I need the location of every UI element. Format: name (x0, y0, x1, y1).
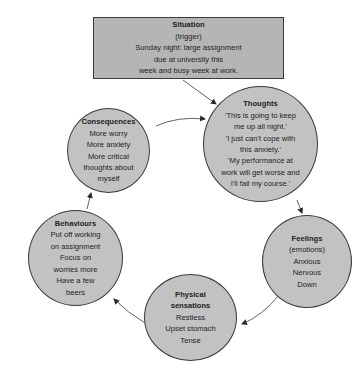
behaviours-line: worries more (54, 264, 98, 275)
behaviours-line: Put off working (50, 229, 100, 240)
situation-title: Situation (172, 19, 204, 30)
arrow-behaviours-to-consequences (87, 193, 91, 209)
arrow-consequences-to-thoughts (156, 118, 205, 126)
behaviours-line: on assignment (51, 241, 100, 252)
feelings-line: Nervous (293, 267, 321, 278)
arrow-situation-to-thoughts (183, 80, 216, 104)
thoughts-circle: Thoughts 'This is going to keep me up al… (203, 86, 318, 202)
thoughts-line: 'My performance at (228, 155, 293, 166)
situation-line: due at university this (154, 54, 223, 65)
situation-line: (trigger) (175, 31, 202, 42)
thoughts-line: work will get worse and (221, 167, 300, 178)
thoughts-line: I'll fail my course.' (231, 178, 290, 189)
consequences-line: More worry (90, 128, 128, 139)
physical-title: Physical (175, 289, 206, 300)
thoughts-line: 'This is going to keep (225, 110, 296, 121)
thoughts-line: me up all night.' (234, 121, 287, 132)
arrow-physical-to-behaviours (114, 299, 145, 323)
behaviours-line: beers (66, 287, 85, 298)
consequences-line: More anxiety (87, 139, 130, 150)
feelings-line: Anxious (293, 256, 320, 267)
behaviours-line: Have a few (57, 275, 95, 286)
arrow-thoughts-to-feelings (297, 200, 302, 213)
thoughts-title: Thoughts (243, 98, 278, 109)
behaviours-circle: Behaviours Put off working on assignment… (28, 210, 123, 306)
physical-line: Restless (176, 312, 205, 323)
behaviours-title: Behaviours (55, 218, 96, 229)
physical-sensations-circle: Physical sensations Restless Upset stoma… (144, 274, 237, 361)
consequences-line: More critical (88, 151, 129, 162)
behaviours-line: Focus on (60, 252, 91, 263)
physical-title: sensations (171, 300, 211, 311)
consequences-line: thoughts about (83, 162, 133, 173)
situation-box: Situation (trigger) Sunday night: large … (93, 17, 284, 79)
physical-line: Tense (180, 335, 200, 346)
feelings-line: Down (297, 279, 316, 290)
situation-line: week and busy week at work. (139, 65, 238, 76)
physical-line: Upset stomach (165, 323, 216, 334)
feelings-line: (emotions) (289, 244, 325, 255)
consequences-line: myself (98, 173, 120, 184)
feelings-title: Feelings (292, 233, 323, 244)
consequences-title: Consequences (81, 116, 135, 127)
thoughts-line: this anxiety.' (240, 144, 281, 155)
cbt-cycle-diagram: Situation (trigger) Sunday night: large … (0, 0, 364, 370)
situation-line: Sunday night: large assignment (135, 42, 241, 53)
feelings-circle: Feelings (emotions) Anxious Nervous Down (262, 215, 352, 308)
consequences-circle: Consequences More worry More anxiety Mor… (67, 108, 150, 193)
thoughts-line: 'I just can't cope with (226, 133, 296, 144)
arrow-feelings-to-physical (242, 295, 279, 324)
